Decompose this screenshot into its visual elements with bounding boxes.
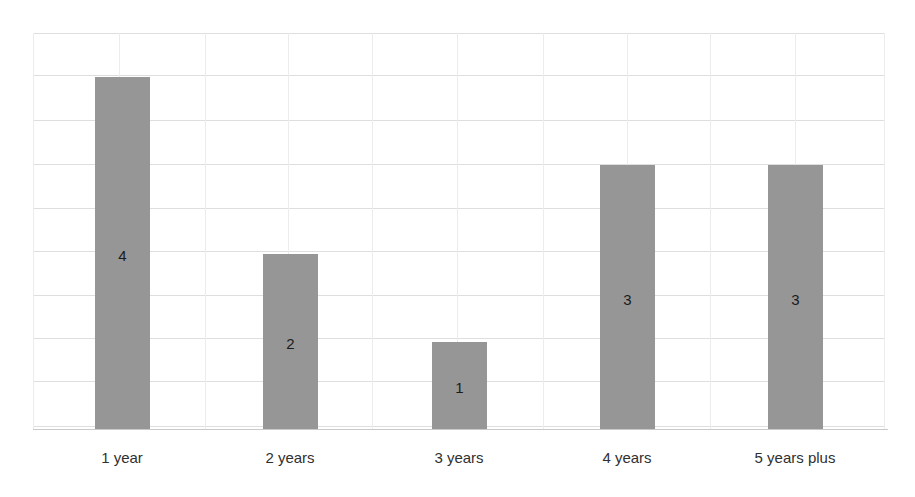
gridline-horizontal	[33, 164, 885, 165]
category-axis: 1 year 2 years 3 years 4 years 5 years p…	[33, 449, 885, 477]
category-label-5-years-plus: 5 years plus	[710, 449, 880, 466]
gridline-horizontal	[33, 120, 885, 121]
gridline-vertical	[543, 33, 544, 430]
gridline-horizontal	[33, 208, 885, 209]
gridline-vertical	[710, 33, 711, 430]
gridline-horizontal	[33, 33, 885, 34]
x-axis-line	[33, 429, 888, 430]
category-label-3-years: 3 years	[374, 449, 544, 466]
gridline-horizontal	[33, 75, 885, 76]
category-label-2-years: 2 years	[205, 449, 375, 466]
bar-value-label: 4	[95, 248, 150, 263]
gridline-horizontal	[33, 295, 885, 296]
bar-value-label: 3	[600, 292, 655, 307]
bar-chart-screenshot: 4 2 1 3 3 1 year 2 years 3 years 4 years…	[0, 0, 915, 497]
gridline-horizontal	[33, 338, 885, 339]
bar-value-label: 2	[263, 336, 318, 351]
category-label-1-year: 1 year	[37, 449, 207, 466]
gridline-vertical	[372, 33, 373, 430]
gridline-vertical	[205, 33, 206, 430]
gridline-vertical	[33, 33, 34, 430]
bar-value-label: 3	[768, 292, 823, 307]
plot-area: 4 2 1 3 3	[33, 33, 885, 430]
bar-value-label: 1	[432, 380, 487, 395]
gridline-horizontal	[33, 251, 885, 252]
gridline-vertical	[884, 33, 885, 430]
category-label-4-years: 4 years	[542, 449, 712, 466]
